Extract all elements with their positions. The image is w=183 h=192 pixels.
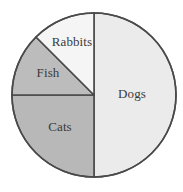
pie-slice-cats xyxy=(12,95,94,177)
pie-slice-label-dogs: Dogs xyxy=(118,86,146,101)
pie-chart-figure: Dogs Cats Fish Rabbits xyxy=(0,0,183,192)
pie-slice-label-cats: Cats xyxy=(48,119,72,134)
pie-slice-label-rabbits: Rabbits xyxy=(52,34,92,49)
pie-chart-svg: Dogs Cats Fish Rabbits xyxy=(0,0,183,192)
pie-slices-group xyxy=(12,13,176,177)
pie-slice-label-fish: Fish xyxy=(37,65,60,80)
